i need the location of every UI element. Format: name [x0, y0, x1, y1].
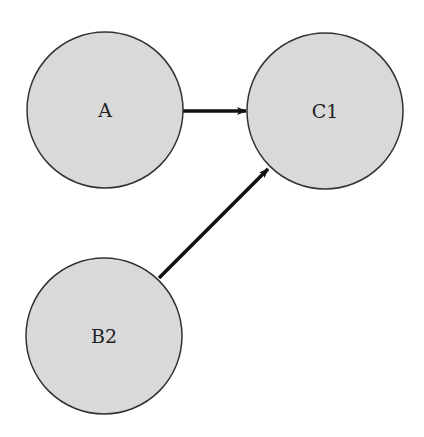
node-a: A — [27, 32, 183, 188]
node-label: C1 — [312, 100, 339, 122]
node-label: A — [97, 99, 112, 121]
node-label: B2 — [91, 325, 117, 347]
diagram-canvas: AC1B2 — [0, 0, 424, 437]
edge-b2-to-c1 — [159, 169, 268, 278]
node-c1: C1 — [247, 33, 403, 189]
node-b2: B2 — [26, 258, 182, 414]
